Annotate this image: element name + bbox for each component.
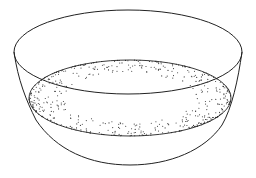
bowl-rim: [14, 10, 242, 94]
bowl-illustration: [0, 0, 256, 178]
contents-surface: [29, 60, 231, 136]
bowl-body: [14, 52, 242, 165]
